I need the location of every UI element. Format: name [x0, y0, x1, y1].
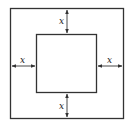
right-label: x [107, 55, 112, 65]
top-label: x [59, 16, 64, 26]
diagram-canvas: x x x x [0, 0, 130, 126]
inner-square [37, 35, 97, 93]
bottom-label: x [59, 101, 64, 111]
left-label: x [20, 55, 25, 65]
